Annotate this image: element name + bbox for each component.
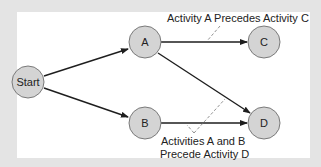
annotation-ab-line2: Precede Activity D [160, 148, 249, 161]
node-d: D [248, 107, 280, 139]
callout-line-top [207, 26, 220, 41]
node-b-label: B [141, 117, 148, 129]
edge-start-a [44, 49, 128, 76]
node-a: A [129, 26, 161, 58]
node-d-label: D [260, 117, 268, 129]
annotation-ab-line1: Activities A and B [161, 135, 245, 148]
edge-a-d [158, 53, 250, 113]
node-b: B [129, 107, 161, 139]
node-start: Start [12, 66, 44, 98]
edge-start-b [44, 88, 128, 117]
node-c-label: C [260, 36, 268, 48]
node-a-label: A [141, 36, 149, 48]
node-c: C [248, 26, 280, 58]
callout-line-bottom-left [187, 125, 194, 133]
annotation-a-precedes-c: Activity A Precedes Activity C [167, 12, 309, 25]
callout-line-bottom-right [194, 99, 225, 133]
node-start-label: Start [16, 76, 39, 88]
